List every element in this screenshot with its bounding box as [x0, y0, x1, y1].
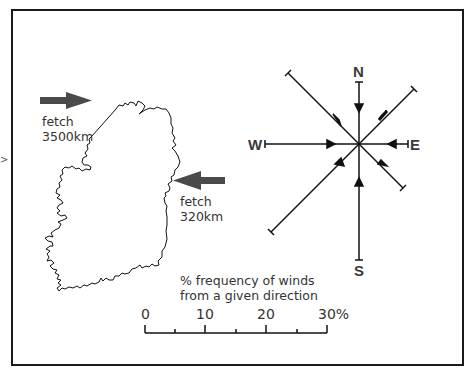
ray-sw — [268, 144, 359, 235]
fetch-arrow-east — [173, 171, 225, 190]
fetch-east-distance: 320km — [180, 209, 223, 224]
ray-n — [355, 82, 363, 144]
compass-rose — [265, 70, 417, 260]
ray-nw — [285, 70, 359, 144]
fetch-west-label-line1: fetch — [42, 114, 93, 129]
fetch-east-label-line1: fetch — [180, 194, 223, 209]
scale-tick-0: 0 — [141, 307, 150, 322]
compass-label-south: S — [354, 262, 364, 279]
scale-tick-20: 20 — [257, 307, 275, 322]
compass-label-east: E — [410, 136, 420, 153]
ray-e — [359, 140, 408, 148]
compass-label-west: W — [248, 136, 262, 153]
scale-tick-30: 30% — [318, 307, 349, 322]
ray-s — [355, 144, 363, 260]
fetch-arrow-west — [40, 92, 92, 109]
ray-se — [359, 144, 406, 191]
scale-caption-line2: from a given direction — [180, 288, 318, 303]
wind-rose-figure: > — [0, 0, 472, 373]
figure-graphics — [0, 0, 472, 373]
scale-tick-10: 10 — [196, 307, 214, 322]
ray-ne — [359, 86, 417, 144]
compass-label-north: N — [353, 63, 364, 80]
fetch-west-distance: 3500km — [42, 129, 93, 144]
scale-caption: % frequency of winds from a given direct… — [180, 273, 318, 303]
scale-caption-line1: % frequency of winds — [180, 273, 318, 288]
scale-bar — [145, 325, 327, 333]
fetch-east-label: fetch 320km — [180, 194, 223, 224]
fetch-west-label: fetch 3500km — [42, 114, 93, 144]
ray-w — [265, 140, 359, 148]
